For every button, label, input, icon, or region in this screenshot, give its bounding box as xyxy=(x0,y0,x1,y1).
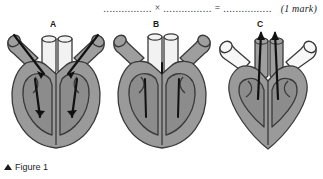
equals-operator: = xyxy=(212,3,224,13)
answer-blank-3[interactable]: ................ xyxy=(223,3,271,14)
heart-diagram-b xyxy=(108,27,216,155)
answer-blank-2[interactable]: ................ xyxy=(163,3,211,14)
marks-annotation: (1 mark) xyxy=(272,3,317,14)
figure-caption: Figure 1 xyxy=(4,162,48,172)
figure-caption-text: Figure 1 xyxy=(15,162,48,172)
heart-diagram-a xyxy=(2,27,110,155)
triangle-up-icon xyxy=(4,164,12,170)
heart-diagram-c xyxy=(214,27,322,155)
answer-equation-line: ................ × ................ = ..… xyxy=(0,0,323,16)
worksheet-page: ................ × ................ = ..… xyxy=(0,0,323,179)
multiply-operator: × xyxy=(152,3,164,13)
answer-blank-1[interactable]: ................ xyxy=(103,3,151,14)
